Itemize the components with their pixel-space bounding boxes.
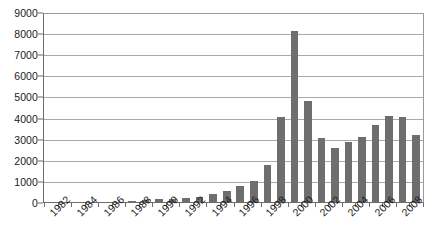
x-axis-tick-mark <box>152 203 153 207</box>
bar <box>345 142 353 203</box>
x-axis-tick-mark <box>98 203 99 207</box>
y-axis-tick-label: 1000 <box>0 176 38 188</box>
x-axis-tick-mark <box>423 203 424 207</box>
x-axis-tick-mark <box>396 203 397 207</box>
y-axis-tick-label: 6000 <box>0 70 38 82</box>
x-axis: 1982198419861988199019921994199619982000… <box>44 203 423 244</box>
bar <box>385 116 393 203</box>
x-axis-tick-mark <box>206 203 207 207</box>
y-axis-tick-label: 4000 <box>0 113 38 125</box>
y-axis-tick-label: 5000 <box>0 91 38 103</box>
x-axis-tick-mark <box>342 203 343 207</box>
bar <box>264 165 272 203</box>
x-axis-tick-mark <box>44 203 45 207</box>
x-axis-tick-mark <box>261 203 262 207</box>
bar <box>291 31 299 203</box>
y-axis-tick-label: 7000 <box>0 49 38 61</box>
bar <box>318 138 326 203</box>
x-axis-tick-mark <box>179 203 180 207</box>
x-axis-tick-mark <box>125 203 126 207</box>
x-axis-tick-mark <box>234 203 235 207</box>
bar <box>277 117 285 203</box>
bar <box>399 117 407 203</box>
y-axis-tick-label: 0 <box>0 197 38 209</box>
y-axis-tick-label: 8000 <box>0 28 38 40</box>
bar-chart: 0100020003000400050006000700080009000 19… <box>0 0 433 244</box>
bar <box>372 125 380 203</box>
bar <box>304 101 312 203</box>
x-axis-tick-mark <box>71 203 72 207</box>
bars-layer <box>44 13 423 203</box>
y-axis-tick-label: 3000 <box>0 134 38 146</box>
y-axis-tick-label: 2000 <box>0 155 38 167</box>
y-axis-tick-label: 9000 <box>0 7 38 19</box>
bar <box>236 186 244 203</box>
x-axis-tick-mark <box>315 203 316 207</box>
x-axis-tick-mark <box>288 203 289 207</box>
x-axis-tick-mark <box>369 203 370 207</box>
